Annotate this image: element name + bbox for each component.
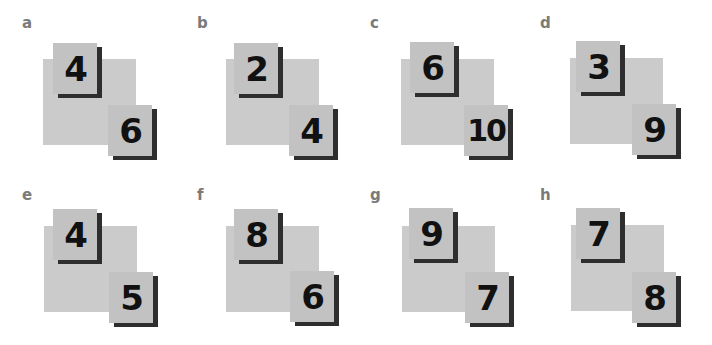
panel-f: f 8 6 [197,188,367,345]
panel-h: h 7 8 [540,188,710,345]
panel-label: d [540,16,551,31]
bottom-number-card: 7 [465,272,509,323]
panel-label: a [22,16,32,31]
panel-d: d 3 9 [540,16,710,181]
card-number: 10 [467,116,505,146]
card-number: 9 [420,217,442,251]
card-number: 5 [120,281,142,315]
top-number-card: 4 [53,43,97,94]
bottom-number-card: 4 [289,105,333,156]
card-number: 4 [300,114,322,148]
card-number: 6 [421,51,443,85]
panel-label: c [370,16,379,31]
bottom-number-card: 6 [290,271,334,322]
panel-b: b 2 4 [197,16,367,181]
panel-e: e 4 5 [22,188,192,345]
bottom-number-card: 10 [464,105,508,156]
panel-label: b [197,16,208,31]
top-number-card: 4 [53,209,97,260]
panel-a: a 4 6 [22,16,192,181]
panel-label: h [540,188,551,203]
card-number: 9 [643,113,665,147]
panel-label: e [22,188,32,203]
top-number-card: 6 [410,42,454,93]
bottom-number-card: 5 [109,272,153,323]
bottom-number-card: 8 [632,272,676,323]
bottom-number-card: 6 [108,105,152,156]
top-number-card: 9 [409,208,453,259]
card-number: 8 [643,281,665,315]
top-number-card: 2 [234,43,278,94]
card-number: 7 [476,281,498,315]
card-number: 4 [64,52,86,86]
card-number: 2 [245,52,267,86]
panel-label: f [197,188,204,203]
top-number-card: 8 [234,209,278,260]
panel-label: g [370,188,381,203]
card-number: 7 [587,217,609,251]
card-number: 8 [245,218,267,252]
card-number: 3 [587,50,609,84]
bottom-number-card: 9 [632,104,676,155]
card-number: 6 [301,280,323,314]
panel-c: c 6 10 [370,16,540,181]
card-number: 6 [119,114,141,148]
top-number-card: 7 [576,208,620,259]
top-number-card: 3 [576,41,620,92]
card-number: 4 [64,218,86,252]
panel-g: g 9 7 [370,188,540,345]
